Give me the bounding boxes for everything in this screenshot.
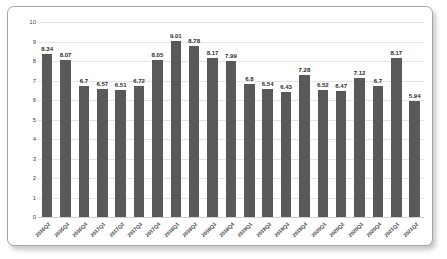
bar-value-label: 6.47 <box>335 83 347 89</box>
gridline <box>38 217 424 218</box>
bar-slot: 6.47 <box>332 22 350 217</box>
bar[interactable] <box>97 89 107 217</box>
y-axis-tick-label: 9 <box>14 39 36 45</box>
bar-value-label: 5.94 <box>409 93 421 99</box>
y-axis-tick-label: 5 <box>14 117 36 123</box>
x-axis-tick: 2018Q2 <box>185 219 203 259</box>
x-axis-tick: 2018Q4 <box>222 219 240 259</box>
bar[interactable] <box>115 90 125 217</box>
bar[interactable] <box>373 86 383 217</box>
bar[interactable] <box>336 91 346 217</box>
bar-value-label: 6.43 <box>280 84 292 90</box>
bar-slot: 8.17 <box>203 22 221 217</box>
x-axis-tick: 2021Q2 <box>406 219 424 259</box>
bar-value-label: 8.17 <box>207 50 219 56</box>
bar[interactable] <box>134 86 144 217</box>
bar-slot: 8.05 <box>148 22 166 217</box>
bar[interactable] <box>244 84 254 217</box>
chart-container: 109876543210 8.348.076.76.576.516.728.05… <box>8 7 432 245</box>
x-axis-tick: 2017Q1 <box>93 219 111 259</box>
y-axis-tick-label: 10 <box>14 19 36 25</box>
bar-slot: 5.94 <box>406 22 424 217</box>
bar-value-label: 7.12 <box>354 70 366 76</box>
bar-value-label: 8.34 <box>41 46 53 52</box>
bar-value-label: 6.7 <box>80 78 88 84</box>
bar-value-label: 8.17 <box>390 50 402 56</box>
x-axis-tick: 2016Q3 <box>56 219 74 259</box>
bar-value-label: 8.07 <box>60 52 72 58</box>
y-axis-tick-label: 6 <box>14 97 36 103</box>
bar[interactable] <box>189 46 199 217</box>
x-axis-tick: 2020Q2 <box>332 219 350 259</box>
bar-slot: 6.43 <box>277 22 295 217</box>
bar[interactable] <box>79 86 89 217</box>
bar[interactable] <box>409 101 419 217</box>
bar-value-label: 6.51 <box>115 82 127 88</box>
x-axis-tick: 2018Q1 <box>167 219 185 259</box>
x-axis-tick: 2016Q2 <box>38 219 56 259</box>
x-axis-tick: 2020Q3 <box>350 219 368 259</box>
x-axis-tick: 2019Q4 <box>295 219 313 259</box>
y-axis-tick-label: 3 <box>14 156 36 162</box>
y-axis-tick-label: 8 <box>14 58 36 64</box>
bar[interactable] <box>226 61 236 217</box>
x-axis-tick: 2020Q1 <box>314 219 332 259</box>
x-axis: 2016Q22016Q32016Q42017Q12017Q22017Q32017… <box>38 219 424 259</box>
x-axis-tick: 2016Q4 <box>75 219 93 259</box>
bar-slot: 7.28 <box>295 22 313 217</box>
y-axis-tick-label: 4 <box>14 136 36 142</box>
x-axis-tick-label: 2016Q2 <box>34 221 51 238</box>
y-axis-tick-label: 7 <box>14 78 36 84</box>
bar[interactable] <box>207 58 217 217</box>
bar-slot: 7.99 <box>222 22 240 217</box>
bar-value-label: 6.8 <box>245 76 253 82</box>
bar-slot: 8.07 <box>56 22 74 217</box>
y-axis-tick-label: 2 <box>14 175 36 181</box>
bar-value-label: 6.72 <box>133 78 145 84</box>
bar[interactable] <box>281 92 291 217</box>
plot-area: 8.348.076.76.576.516.728.059.018.788.177… <box>38 22 424 217</box>
bar-slot: 6.8 <box>240 22 258 217</box>
bar-slot: 6.51 <box>112 22 130 217</box>
bar-slot: 6.7 <box>75 22 93 217</box>
bar-slot: 6.57 <box>93 22 111 217</box>
bar[interactable] <box>299 75 309 217</box>
x-axis-tick: 2019Q1 <box>240 219 258 259</box>
bar-series: 8.348.076.76.576.516.728.059.018.788.177… <box>38 22 424 217</box>
bar[interactable] <box>262 89 272 217</box>
bar-slot: 8.34 <box>38 22 56 217</box>
bar[interactable] <box>152 60 162 217</box>
x-axis-tick: 2017Q4 <box>148 219 166 259</box>
bar-slot: 8.17 <box>387 22 405 217</box>
x-axis-tick: 2019Q2 <box>259 219 277 259</box>
bar[interactable] <box>171 41 181 217</box>
bar-value-label: 9.01 <box>170 33 182 39</box>
x-axis-tick: 2021Q1 <box>387 219 405 259</box>
bar-value-label: 6.54 <box>262 81 274 87</box>
bar-slot: 9.01 <box>167 22 185 217</box>
bar[interactable] <box>60 60 70 217</box>
x-axis-tick: 2019Q3 <box>277 219 295 259</box>
bar-value-label: 8.05 <box>152 52 164 58</box>
bar-value-label: 8.78 <box>188 38 200 44</box>
bar[interactable] <box>354 78 364 217</box>
y-axis-tick-label: 1 <box>14 195 36 201</box>
bar-value-label: 6.57 <box>96 81 108 87</box>
x-axis-tick: 2018Q3 <box>203 219 221 259</box>
bar-slot: 6.52 <box>314 22 332 217</box>
bar[interactable] <box>42 54 52 217</box>
x-axis-tick: 2017Q2 <box>112 219 130 259</box>
bar[interactable] <box>391 58 401 217</box>
bar-value-label: 6.7 <box>374 78 382 84</box>
bar-value-label: 6.52 <box>317 82 329 88</box>
x-axis-tick: 2020Q4 <box>369 219 387 259</box>
bar-slot: 6.72 <box>130 22 148 217</box>
bar-slot: 7.12 <box>350 22 368 217</box>
y-axis-tick-label: 0 <box>14 214 36 220</box>
bar-value-label: 7.28 <box>299 67 311 73</box>
x-axis-tick: 2017Q3 <box>130 219 148 259</box>
bar-slot: 6.54 <box>259 22 277 217</box>
bar-value-label: 7.99 <box>225 53 237 59</box>
bar-slot: 6.7 <box>369 22 387 217</box>
bar[interactable] <box>318 90 328 217</box>
